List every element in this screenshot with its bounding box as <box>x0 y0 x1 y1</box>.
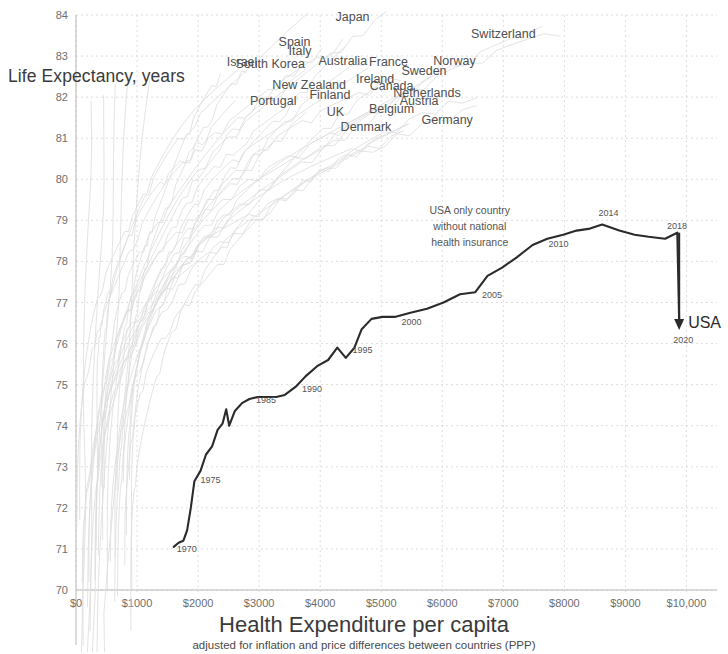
country-label: South Korea <box>235 57 305 71</box>
y-tick-label: 73 <box>56 461 68 473</box>
country-label: Belgium <box>369 102 414 116</box>
country-label: Portugal <box>250 94 297 108</box>
country-label: Australia <box>318 54 367 68</box>
y-tick-label: 72 <box>56 502 68 514</box>
annotation-line: health insurance <box>431 236 508 248</box>
health-expenditure-life-expectancy-chart: 707172737475767778798081828384 $0$1000$2… <box>0 0 728 654</box>
y-tick-label: 70 <box>56 584 68 596</box>
country-label: Denmark <box>341 120 392 134</box>
y-tick-label: 76 <box>56 338 68 350</box>
x-tick-label: $4000 <box>305 597 336 609</box>
y-axis-tick-labels: 707172737475767778798081828384 <box>56 9 68 596</box>
usa-year-label: 1975 <box>201 475 221 485</box>
country-trajectory-lines <box>77 12 560 652</box>
usa-year-label: 2010 <box>549 239 569 249</box>
country-label: Finland <box>309 88 350 102</box>
country-trajectory <box>96 124 408 546</box>
country-trajectory <box>118 64 364 596</box>
x-tick-label: $10,000 <box>667 597 707 609</box>
usa-year-2020-label: 2020 <box>673 335 693 345</box>
y-tick-label: 78 <box>56 255 68 267</box>
usa-year-label: 1990 <box>302 384 322 394</box>
country-label: Germany <box>421 113 473 127</box>
usa-annotation: USA only countrywithout nationalhealth i… <box>429 204 510 248</box>
country-label: Japan <box>336 10 370 24</box>
x-axis-subtitle: adjusted for inflation and price differe… <box>0 639 728 651</box>
y-tick-label: 77 <box>56 297 68 309</box>
usa-year-labels: 1970197519851990199520002005201020142018 <box>177 208 687 554</box>
annotation-line: USA only country <box>429 204 510 216</box>
x-tick-label: $8000 <box>549 597 580 609</box>
x-tick-label: $6000 <box>427 597 458 609</box>
usa-year-label: 2000 <box>401 317 421 327</box>
y-axis-title: Life Expectancy, years <box>8 66 185 87</box>
x-axis-tick-labels: $0$1000$2000$3000$4000$5000$6000$7000$80… <box>70 590 706 609</box>
country-label: Switzerland <box>471 27 536 41</box>
country-trajectory <box>131 47 344 588</box>
usa-endpoint-marker: USA2020 <box>673 233 721 345</box>
y-tick-label: 81 <box>56 132 68 144</box>
x-tick-label: $1000 <box>122 597 153 609</box>
x-tick-label: $7000 <box>488 597 519 609</box>
y-tick-label: 83 <box>56 50 68 62</box>
usa-year-label: 1995 <box>353 345 373 355</box>
y-tick-label: 74 <box>56 420 68 432</box>
usa-year-label: 2018 <box>667 221 687 231</box>
x-tick-label: $2000 <box>183 597 214 609</box>
y-tick-label: 84 <box>56 9 68 21</box>
chart-container: 707172737475767778798081828384 $0$1000$2… <box>0 0 728 654</box>
usa-line-path <box>174 225 680 547</box>
usa-year-label: 1970 <box>177 544 197 554</box>
country-trajectory <box>131 88 375 630</box>
y-tick-label: 79 <box>56 214 68 226</box>
y-tick-label: 82 <box>56 91 68 103</box>
country-label: UK <box>327 105 345 119</box>
country-labels: JapanSwitzerlandSpainItalyIsraelSouth Ko… <box>227 10 536 134</box>
country-trajectory <box>126 108 375 535</box>
usa-year-label: 2005 <box>482 290 502 300</box>
usa-year-label: 1985 <box>256 395 276 405</box>
x-tick-label: $9000 <box>610 597 641 609</box>
x-tick-label: $0 <box>70 597 82 609</box>
country-trajectory <box>123 68 368 482</box>
x-tick-label: $5000 <box>366 597 397 609</box>
usa-trajectory-line <box>174 225 680 547</box>
annotation-line: without national <box>432 220 506 232</box>
x-axis-title: Health Expenditure per capita <box>0 612 728 638</box>
usa-year-label: 2014 <box>599 208 619 218</box>
country-label: Sweden <box>401 64 446 78</box>
usa-label: USA <box>688 314 721 331</box>
x-tick-label: $3000 <box>244 597 275 609</box>
y-tick-label: 71 <box>56 543 68 555</box>
y-tick-label: 75 <box>56 379 68 391</box>
y-tick-label: 80 <box>56 173 68 185</box>
usa-drop-arrow-head <box>674 319 684 330</box>
country-trajectory <box>107 73 220 588</box>
